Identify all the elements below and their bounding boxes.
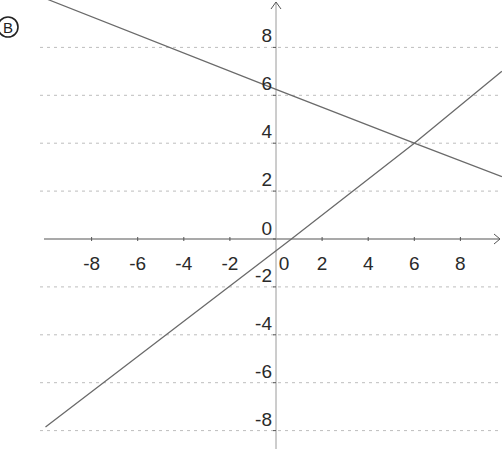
x-tick-label: -8: [83, 253, 100, 274]
line-chart: -8-6-4-202468-8-6-4-202468 B: [0, 0, 502, 449]
tick-labels: -8-6-4-202468-8-6-4-202468: [83, 25, 466, 429]
plot-series: [46, 0, 502, 427]
x-tick-label: 8: [455, 253, 466, 274]
y-tick-label: 2: [261, 169, 272, 190]
x-tick-label: 0: [279, 253, 290, 274]
y-tick-label: 0: [261, 218, 272, 239]
y-tick-label: -8: [255, 409, 272, 430]
y-tick-label: 4: [261, 121, 272, 142]
x-tick-label: 4: [363, 253, 374, 274]
y-tick-label: 8: [261, 25, 272, 46]
x-tick-label: -6: [129, 253, 146, 274]
y-tick-label: -6: [255, 361, 272, 382]
panel-label-badge: B: [0, 17, 18, 37]
x-tick-label: -4: [175, 253, 192, 274]
y-tick-label: -4: [255, 313, 272, 334]
series-line: [46, 71, 502, 427]
panel-label: B: [3, 19, 13, 36]
y-tick-label: -2: [255, 265, 272, 286]
x-tick-label: 2: [317, 253, 328, 274]
x-tick-label: -2: [221, 253, 238, 274]
y-tick-label: 6: [261, 73, 272, 94]
axes: [44, 2, 500, 449]
x-tick-label: 6: [409, 253, 420, 274]
series-line: [48, 0, 502, 177]
